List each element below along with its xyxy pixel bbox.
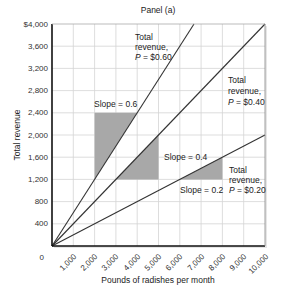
slope-label-0.6: Slope = 0.6 — [94, 99, 138, 109]
svg-text:$4,000: $4,000 — [24, 20, 49, 29]
svg-text:3,200: 3,200 — [28, 64, 49, 73]
svg-text:3,000: 3,000 — [100, 252, 121, 273]
svg-text:Total: Total — [228, 75, 246, 85]
svg-text:revenue,: revenue, — [228, 86, 261, 96]
svg-text:6,000: 6,000 — [164, 252, 185, 273]
svg-text:revenue,: revenue, — [229, 175, 262, 185]
svg-text:Total: Total — [229, 165, 247, 175]
slope-label-0.4: Slope = 0.4 — [164, 152, 208, 162]
svg-text:4,000: 4,000 — [122, 252, 143, 273]
svg-text:P = $0.20: P = $0.20 — [229, 185, 266, 195]
svg-text:8,000: 8,000 — [207, 252, 228, 273]
chart: Panel (a) $4,000 3,600 3,200 2,800 2,400… — [0, 0, 281, 302]
chart-title: Panel (a) — [141, 5, 176, 15]
svg-text:1,000: 1,000 — [58, 252, 79, 273]
svg-text:revenue,: revenue, — [135, 42, 168, 52]
svg-text:1,600: 1,600 — [28, 153, 49, 162]
svg-text:2,000: 2,000 — [79, 252, 100, 273]
svg-text:3,600: 3,600 — [28, 42, 49, 51]
origin-label: 0 — [40, 253, 45, 262]
svg-text:5,000: 5,000 — [143, 252, 164, 273]
svg-text:2,000: 2,000 — [28, 131, 49, 140]
svg-text:Total: Total — [135, 32, 153, 42]
x-tick-labels: 1,000 2,000 3,000 4,000 5,000 6,000 7,00… — [58, 252, 271, 276]
svg-text:1,200: 1,200 — [28, 175, 49, 184]
x-axis-label: Pounds of radishes per month — [101, 275, 215, 285]
slope-label-0.2: Slope = 0.2 — [180, 185, 224, 195]
svg-text:2,400: 2,400 — [28, 108, 49, 117]
svg-text:2,800: 2,800 — [28, 86, 49, 95]
svg-text:7,000: 7,000 — [186, 252, 207, 273]
svg-text:400: 400 — [35, 219, 49, 228]
svg-text:800: 800 — [35, 197, 49, 206]
svg-text:10,000: 10,000 — [247, 252, 271, 276]
svg-text:P = $0.40: P = $0.40 — [228, 97, 265, 107]
svg-text:P = $0.60: P = $0.60 — [135, 52, 172, 62]
y-axis-label: Total revenue — [12, 109, 22, 160]
y-tick-labels: $4,000 3,600 3,200 2,800 2,400 2,000 1,6… — [24, 20, 49, 228]
